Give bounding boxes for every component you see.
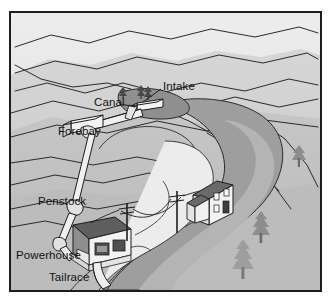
diagram-frame: Intake Canal Forebay Penstock Powerhouse…: [9, 11, 322, 292]
label-powerhouse: Powerhouse: [16, 250, 81, 262]
label-canal: Canal: [94, 97, 125, 109]
label-intake: Intake: [163, 81, 195, 93]
label-forebay: Forebay: [58, 126, 101, 138]
illustration-stage: Intake Canal Forebay Penstock Powerhouse…: [0, 0, 333, 306]
label-penstock: Penstock: [38, 196, 86, 208]
label-tailrace: Tailrace: [49, 272, 89, 284]
